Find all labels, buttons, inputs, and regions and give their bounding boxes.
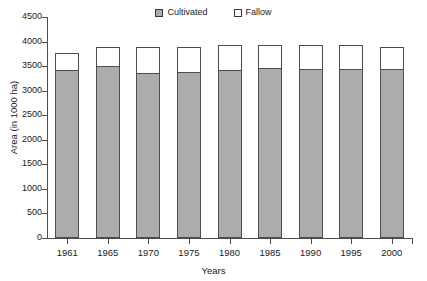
legend-entry-fallow: Fallow — [234, 8, 272, 17]
x-axis-tick — [108, 239, 109, 244]
bar-segment-fallow — [136, 47, 160, 74]
x-axis-tick — [67, 239, 68, 244]
y-axis: 050010001500200025003000350040004500 — [0, 0, 42, 281]
y-axis-tick — [42, 91, 47, 92]
bar-2000 — [380, 47, 404, 238]
x-axis-tick — [270, 239, 271, 244]
plot-area — [47, 17, 412, 238]
x-axis-label: 1961 — [45, 248, 89, 258]
bar-segment-cultivated — [55, 70, 79, 238]
x-axis-tick-end — [412, 239, 413, 244]
y-axis-label: 1000 — [2, 184, 42, 193]
bar-segment-cultivated — [380, 69, 404, 238]
x-axis-label: 1975 — [167, 248, 211, 258]
y-axis-tick — [42, 213, 47, 214]
x-axis-tick — [351, 239, 352, 244]
bar-segment-fallow — [55, 53, 79, 70]
bar-segment-cultivated — [258, 68, 282, 238]
legend-entry-cultivated: Cultivated — [155, 8, 207, 17]
bar-segment-cultivated — [96, 66, 120, 238]
bar-segment-cultivated — [339, 69, 363, 238]
y-axis-tick — [42, 66, 47, 67]
y-axis-label: 3500 — [2, 61, 42, 70]
y-axis-label: 2000 — [2, 135, 42, 144]
bar-1961 — [55, 53, 79, 238]
y-axis-tick — [42, 140, 47, 141]
bar-segment-cultivated — [177, 72, 201, 238]
bar-1970 — [136, 47, 160, 238]
y-axis-tick — [42, 238, 47, 239]
y-axis-tick — [42, 17, 47, 18]
x-axis-label: 1985 — [248, 248, 292, 258]
bar-segment-cultivated — [218, 70, 242, 238]
x-axis-label: 1970 — [126, 248, 170, 258]
bar-segment-fallow — [96, 47, 120, 67]
y-axis-label: 500 — [2, 208, 42, 217]
x-axis-label: 1965 — [86, 248, 130, 258]
bar-segment-fallow — [299, 45, 323, 70]
bar-1980 — [218, 45, 242, 238]
y-axis-label: 4000 — [2, 37, 42, 46]
chart-legend: Cultivated Fallow — [0, 8, 427, 17]
x-axis-label: 1995 — [329, 248, 373, 258]
y-axis-label: 1500 — [2, 159, 42, 168]
x-axis-tick — [311, 239, 312, 244]
legend-swatch-fallow-icon — [234, 9, 242, 17]
y-axis-tick — [42, 115, 47, 116]
y-axis-tick — [42, 164, 47, 165]
bar-1995 — [339, 45, 363, 238]
bar-segment-fallow — [218, 45, 242, 71]
x-axis-label: 2000 — [370, 248, 414, 258]
bar-segment-fallow — [258, 45, 282, 70]
bar-segment-fallow — [177, 47, 201, 73]
x-axis-tick — [148, 239, 149, 244]
y-axis-label: 0 — [2, 233, 42, 242]
bar-segment-cultivated — [299, 69, 323, 238]
x-axis-label: 1990 — [289, 248, 333, 258]
bar-segment-fallow — [339, 45, 363, 70]
bar-segment-fallow — [380, 47, 404, 70]
stacked-bar-chart: Cultivated Fallow Area (in 1000 ha) 0500… — [0, 0, 427, 281]
x-axis-tick — [392, 239, 393, 244]
bar-1975 — [177, 47, 201, 238]
x-axis-tick — [230, 239, 231, 244]
y-axis-label: 3000 — [2, 86, 42, 95]
x-axis-tick — [189, 239, 190, 244]
legend-label-fallow: Fallow — [246, 8, 272, 17]
y-axis-label: 2500 — [2, 110, 42, 119]
x-axis-label: 1980 — [208, 248, 252, 258]
y-axis-tick — [42, 42, 47, 43]
legend-swatch-cultivated-icon — [155, 9, 163, 17]
x-axis-title: Years — [0, 265, 427, 276]
bar-1965 — [96, 47, 120, 238]
y-axis-tick — [42, 189, 47, 190]
bar-segment-cultivated — [136, 73, 160, 239]
bar-1985 — [258, 45, 282, 238]
bar-1990 — [299, 45, 323, 238]
legend-label-cultivated: Cultivated — [167, 8, 207, 17]
y-axis-label: 4500 — [2, 12, 42, 21]
